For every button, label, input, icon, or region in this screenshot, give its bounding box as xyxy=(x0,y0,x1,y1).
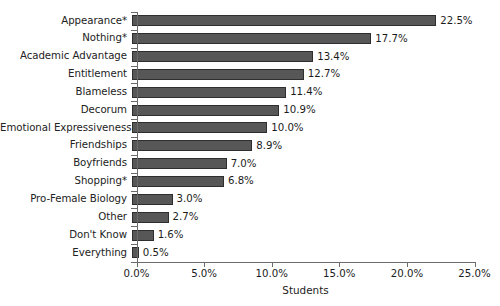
bar-row: Appearance*22.5% xyxy=(0,12,500,30)
bar-row: Emotional Expressiveness10.0% xyxy=(0,119,500,137)
value-tick xyxy=(407,262,408,267)
bar[interactable] xyxy=(132,15,436,26)
bar-row: Academic Advantage13.4% xyxy=(0,48,500,66)
bar-track: 2.7% xyxy=(132,208,500,226)
bar-row: Blameless11.4% xyxy=(0,83,500,101)
bar-row: Nothing*17.7% xyxy=(0,30,500,48)
bar[interactable] xyxy=(132,140,252,151)
value-tick xyxy=(272,262,273,267)
value-tick-label: 0.0% xyxy=(124,268,150,279)
value-tick-label: 10.0% xyxy=(256,268,288,279)
bar-track: 17.7% xyxy=(132,30,500,48)
bar-row: Everything0.5% xyxy=(0,244,500,262)
category-label: Don't Know xyxy=(0,230,132,241)
category-tick xyxy=(131,101,137,102)
bar-value-label: 10.0% xyxy=(271,123,303,133)
category-tick xyxy=(131,83,137,84)
value-tick-label: 20.0% xyxy=(391,268,423,279)
category-label: Other xyxy=(0,212,132,223)
category-axis-line xyxy=(137,12,138,262)
bar[interactable] xyxy=(132,33,371,44)
bar-value-label: 12.7% xyxy=(308,69,340,79)
plot-area: Appearance*22.5%Nothing*17.7%Academic Ad… xyxy=(0,12,500,262)
category-tick xyxy=(131,66,137,67)
category-label: Appearance* xyxy=(0,16,132,27)
category-label: Blameless xyxy=(0,87,132,98)
bar-row: Other2.7% xyxy=(0,208,500,226)
value-tick-label: 15.0% xyxy=(323,268,355,279)
bar-value-label: 13.4% xyxy=(317,52,349,62)
bar-value-label: 2.7% xyxy=(173,212,199,222)
category-label: Academic Advantage xyxy=(0,51,132,62)
bar[interactable] xyxy=(132,247,139,258)
value-tick-label: 25.0% xyxy=(458,268,490,279)
category-label: Everything xyxy=(0,248,132,259)
category-tick xyxy=(131,119,137,120)
bar-track: 8.9% xyxy=(132,137,500,155)
bar-value-label: 6.8% xyxy=(228,176,254,186)
bar-track: 10.9% xyxy=(132,101,500,119)
bar[interactable] xyxy=(132,51,313,62)
bar-track: 10.0% xyxy=(132,119,500,137)
category-label: Entitlement xyxy=(0,69,132,80)
bar-track: 6.8% xyxy=(132,173,500,191)
bar-track: 12.7% xyxy=(132,66,500,84)
category-tick xyxy=(131,173,137,174)
bar-row: Entitlement12.7% xyxy=(0,66,500,84)
bar[interactable] xyxy=(132,230,154,241)
bar-row: Shopping*6.8% xyxy=(0,173,500,191)
value-tick xyxy=(204,262,205,267)
category-tick xyxy=(131,30,137,31)
bar[interactable] xyxy=(132,105,279,116)
bar-track: 22.5% xyxy=(132,12,500,30)
bar-value-label: 22.5% xyxy=(440,16,472,26)
category-tick xyxy=(131,244,137,245)
bar-track: 3.0% xyxy=(132,190,500,208)
value-axis-line xyxy=(137,262,475,263)
bar-value-label: 17.7% xyxy=(375,34,407,44)
category-label: Emotional Expressiveness xyxy=(0,123,132,134)
category-tick xyxy=(131,137,137,138)
bar-track: 7.0% xyxy=(132,155,500,173)
category-label: Nothing* xyxy=(0,33,132,44)
bar[interactable] xyxy=(132,158,227,169)
category-tick xyxy=(131,155,137,156)
bar-track: 11.4% xyxy=(132,83,500,101)
category-tick xyxy=(131,226,137,227)
bar[interactable] xyxy=(132,176,224,187)
value-tick xyxy=(137,262,138,267)
bar-track: 13.4% xyxy=(132,48,500,66)
bar-value-label: 10.9% xyxy=(283,105,315,115)
bar[interactable] xyxy=(132,87,286,98)
category-tick xyxy=(131,208,137,209)
bar-row: Boyfriends7.0% xyxy=(0,155,500,173)
category-label: Pro-Female Biology xyxy=(0,194,132,205)
bar-value-label: 1.6% xyxy=(158,230,184,240)
category-label: Decorum xyxy=(0,105,132,116)
category-tick xyxy=(131,12,137,13)
bar-value-label: 7.0% xyxy=(231,159,257,169)
x-axis-title: Students xyxy=(137,284,475,296)
bar-chart: Appearance*22.5%Nothing*17.7%Academic Ad… xyxy=(0,0,500,306)
bar-row: Decorum10.9% xyxy=(0,101,500,119)
bar-value-label: 0.5% xyxy=(143,248,169,258)
category-label: Friendships xyxy=(0,140,132,151)
category-tick xyxy=(131,191,137,192)
value-tick-label: 5.0% xyxy=(191,268,217,279)
bar[interactable] xyxy=(132,69,304,80)
bar-track: 1.6% xyxy=(132,226,500,244)
category-tick xyxy=(131,48,137,49)
bar[interactable] xyxy=(132,194,173,205)
bar-value-label: 3.0% xyxy=(177,194,203,204)
bar-value-label: 8.9% xyxy=(256,141,282,151)
value-tick xyxy=(475,262,476,267)
bar[interactable] xyxy=(132,122,267,133)
category-label: Shopping* xyxy=(0,176,132,187)
bar-row: Friendships8.9% xyxy=(0,137,500,155)
category-label: Boyfriends xyxy=(0,158,132,169)
bar-value-label: 11.4% xyxy=(290,87,322,97)
bar-track: 0.5% xyxy=(132,244,500,262)
bar-row: Don't Know1.6% xyxy=(0,226,500,244)
bar-row: Pro-Female Biology3.0% xyxy=(0,190,500,208)
value-tick xyxy=(339,262,340,267)
